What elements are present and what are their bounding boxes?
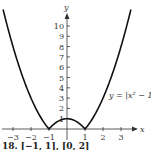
y-tick-label: 8 — [59, 43, 64, 52]
y-axis-arrow-icon — [65, 13, 70, 19]
x-axis-arrow-icon — [132, 127, 138, 132]
y-tick-label: 2 — [59, 104, 64, 113]
y-tick-label: 5 — [59, 74, 64, 83]
y-ticks: 12345678910 — [54, 22, 70, 124]
x-axis-label: x — [140, 125, 145, 134]
y-axis-label: y — [63, 3, 69, 12]
y-tick-label: 10 — [54, 22, 64, 31]
y-tick-label: 4 — [59, 84, 64, 93]
y-tick-label: 3 — [59, 94, 64, 103]
y-tick-label: 6 — [59, 63, 64, 72]
x-tick-label: 3 — [118, 133, 123, 142]
x-tick-label: 2 — [100, 133, 105, 142]
chart: x y −3−2−1123 12345678910 y = |x² − 1| 1… — [0, 0, 151, 150]
curve-annotation: y = |x² − 1| — [108, 91, 151, 100]
caption: 18. [−1, 1], [0, 2] — [2, 141, 89, 150]
y-tick-label: 9 — [59, 32, 64, 41]
y-tick-label: 7 — [59, 53, 64, 62]
